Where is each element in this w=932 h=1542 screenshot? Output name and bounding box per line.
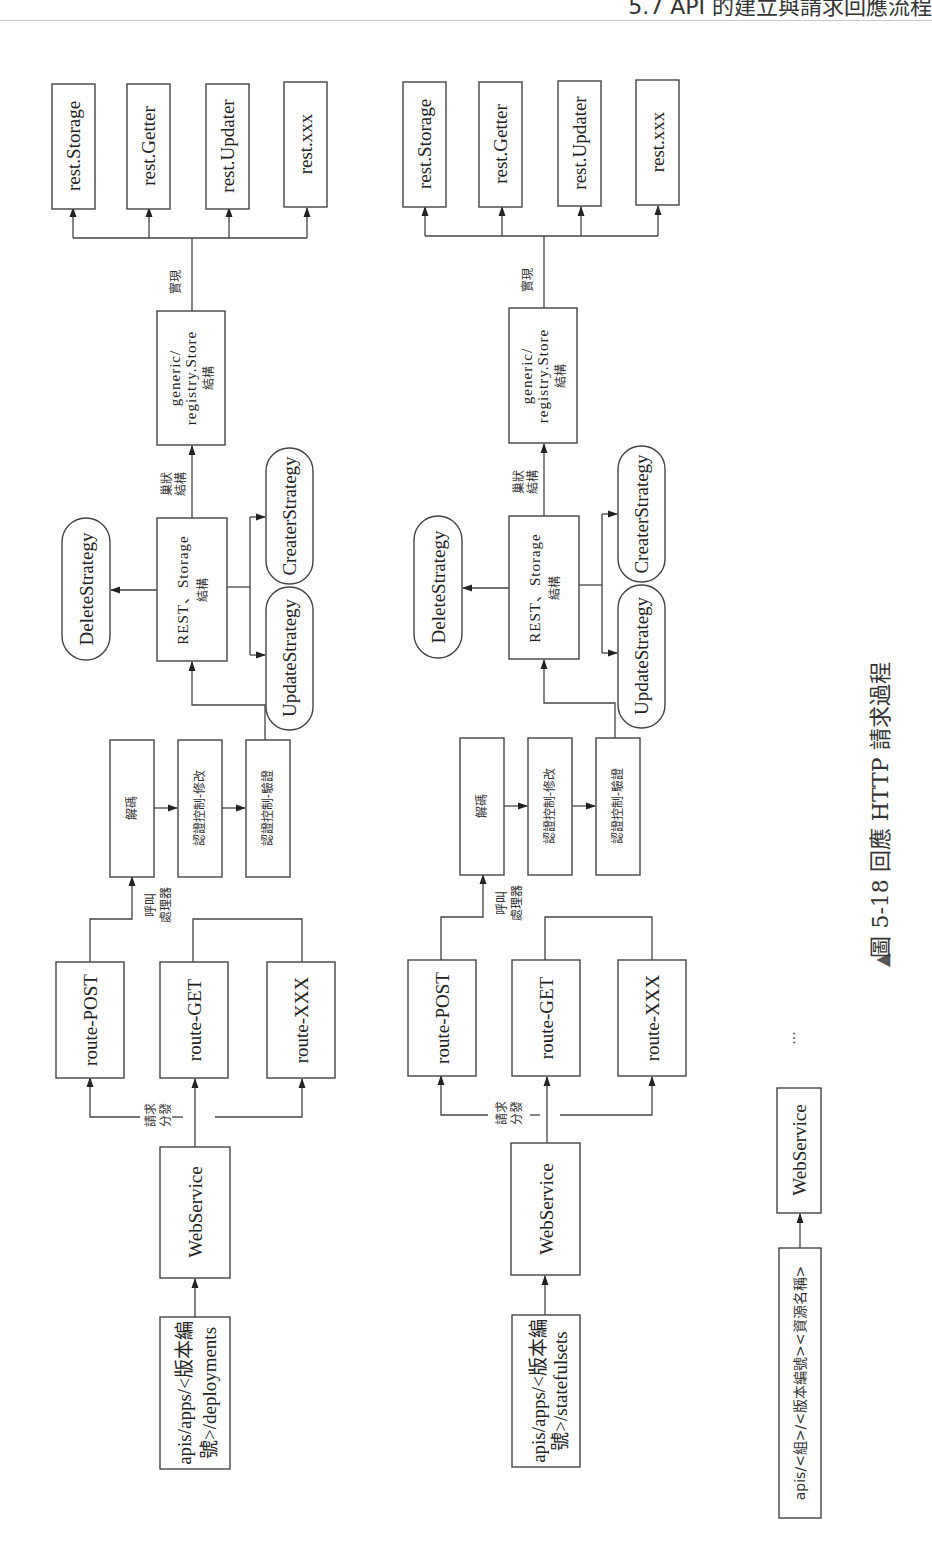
source-path-line1: apis/apps/<版本編 — [528, 1319, 549, 1463]
rest-storage-line2: 結構 — [548, 576, 562, 600]
decode-label: 解碼 — [125, 796, 139, 820]
registry-store-line2: registry.Store — [535, 329, 551, 423]
rest-storage-box — [509, 516, 579, 659]
svg-text:apis/apps/<版本編: apis/apps/<版本編 — [174, 1321, 195, 1465]
route-get-label: route-GET — [536, 976, 557, 1059]
dispatch-label-line2: 分發 — [158, 1103, 173, 1127]
update-strategy-label: UpdateStrategy — [279, 598, 300, 717]
auth-validate-label: 認證控制-驗證 — [610, 768, 625, 844]
connector-routes — [193, 919, 302, 962]
registry-store-line1: generic/ — [519, 348, 535, 404]
rest-xxx-label: rest.xxx — [295, 113, 316, 174]
auth-mutate-label: 認證控制-修改 — [192, 770, 207, 846]
rest-storage-line2: 結構 — [196, 578, 210, 602]
dispatch-label-line1: 請求 — [144, 1103, 158, 1127]
arrow-to-rest-storage — [544, 660, 615, 738]
registry-store-line3: 結構 — [202, 366, 216, 390]
handler-label-line2: 處理器 — [510, 885, 524, 921]
rest-storage-line1: REST、Storage — [175, 535, 191, 645]
delete-strategy-label: DeleteStrategy — [428, 530, 449, 643]
nested-label-line2: 結構 — [174, 472, 188, 496]
source-path-line2: 號>/statefulsets — [550, 1331, 571, 1450]
arrow-to-route-xxx — [215, 1079, 302, 1117]
arrow-to-decode — [441, 875, 483, 960]
rest-storage-interface-label: rest.Storage — [63, 101, 84, 191]
nested-label-line1: 巢狀 — [512, 470, 526, 494]
ellipsis: ... — [782, 1031, 798, 1044]
arrow-to-route-xxx — [560, 1077, 652, 1115]
webservice-label: WebService — [185, 1166, 206, 1257]
flow-diagram-statefulsets: apis/apps/<版本編 號>/statefulsets WebServic… — [403, 80, 686, 1467]
handler-label-line1: 呼叫 — [495, 891, 509, 915]
route-post-label: route-POST — [432, 972, 453, 1064]
flow-diagram-deployments: apis/apps/<版本編 號>/deployments WebService… — [52, 82, 335, 1469]
rest-storage-line1: REST、Storage — [527, 533, 543, 643]
registry-store-line1: generic/ — [167, 350, 183, 406]
dispatch-label-line2: 分發 — [509, 1101, 524, 1125]
route-xxx-label: route-XXX — [642, 974, 663, 1061]
rest-storage-interface-label: rest.Storage — [414, 99, 435, 189]
caption-text: 圖 5-18 回應 HTTP 請求過程 — [868, 662, 893, 957]
implements-label: 實現 — [168, 270, 183, 294]
creater-strategy-label: CreaterStrategy — [631, 454, 652, 574]
route-post-label: route-POST — [80, 974, 101, 1066]
arrow-to-rest-storage — [192, 662, 265, 740]
generic-flow: apis/<組>/<版本編號><資源名稱> WebService ... — [777, 1031, 821, 1518]
generic-source-label: apis/<組>/<版本編號><資源名稱> — [792, 1266, 808, 1500]
route-get-label: route-GET — [184, 978, 205, 1061]
handler-label-line1: 呼叫 — [144, 893, 158, 917]
rest-updater-label: rest.Updater — [217, 99, 238, 193]
arrow-to-decode — [90, 877, 132, 962]
registry-store-line3: 結構 — [554, 364, 568, 388]
webservice-label: WebService — [536, 1163, 557, 1254]
connector-routes — [545, 917, 652, 960]
figure-caption: ▲ 圖 5-18 回應 HTTP 請求過程 — [868, 662, 893, 967]
diagram-canvas: apis/apps/<版本編 號>/deployments WebService… — [0, 0, 932, 1542]
nested-label-line1: 巢狀 — [160, 472, 174, 496]
rest-getter-label: rest.Getter — [490, 104, 511, 184]
arrow-to-route-post — [90, 1078, 140, 1117]
source-path-line1: apis/apps/<版本編 — [174, 1321, 195, 1465]
rest-storage-box — [157, 518, 227, 661]
decode-label: 解碼 — [475, 794, 489, 818]
source-path-line2: 號>/deployments — [199, 1327, 220, 1459]
generic-webservice-label: WebService — [789, 1104, 810, 1195]
auth-validate-label: 認證控制-驗證 — [260, 770, 275, 846]
rest-getter-label: rest.Getter — [138, 106, 159, 186]
nested-label-line2: 結構 — [526, 470, 540, 494]
route-xxx-label: route-XXX — [291, 976, 312, 1063]
handler-label-line2: 處理器 — [159, 887, 173, 923]
auth-mutate-label: 認證控制-修改 — [542, 768, 557, 844]
registry-store-line2: registry.Store — [183, 331, 199, 425]
rest-updater-label: rest.Updater — [569, 96, 590, 190]
arrow-to-route-post — [441, 1076, 488, 1115]
update-strategy-label: UpdateStrategy — [631, 596, 652, 715]
delete-strategy-label: DeleteStrategy — [76, 532, 97, 645]
dispatch-label-line1: 請求 — [495, 1101, 509, 1125]
rest-xxx-label: rest.xxx — [647, 111, 668, 172]
creater-strategy-label: CreaterStrategy — [279, 456, 300, 576]
book-page: 5.7 API 的建立與請求回應流程 apis/apps/<版本編 號>/dep… — [0, 0, 932, 1542]
implements-label: 實現 — [520, 268, 535, 292]
